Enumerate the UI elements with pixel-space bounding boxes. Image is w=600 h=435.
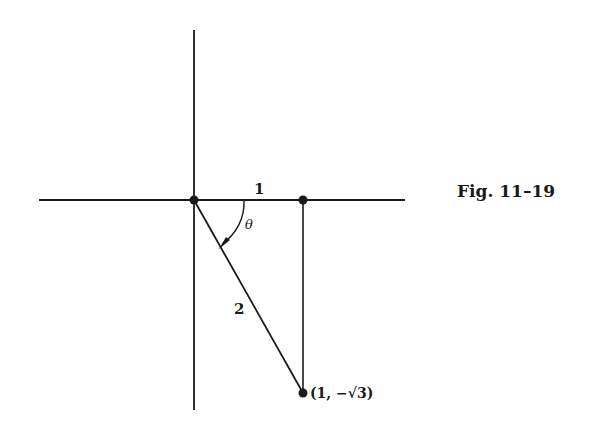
figure-caption: Fig. 11–19 xyxy=(457,181,555,201)
terminal-point-label: (1, −√3) xyxy=(310,385,373,401)
foot-point xyxy=(299,196,308,205)
angle-arc xyxy=(222,200,244,244)
diagram-canvas xyxy=(0,0,600,435)
angle-label: θ xyxy=(245,217,253,232)
origin-point xyxy=(190,196,199,205)
horizontal-side-label: 1 xyxy=(254,180,264,198)
terminal-point xyxy=(299,389,308,398)
hypotenuse-label: 2 xyxy=(234,300,244,318)
arc-arrowhead-icon xyxy=(219,237,230,249)
